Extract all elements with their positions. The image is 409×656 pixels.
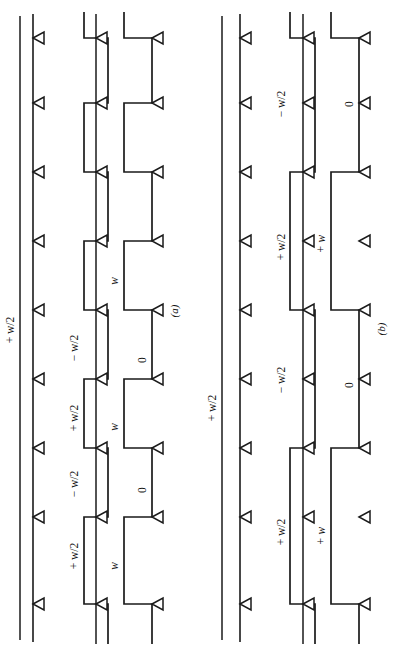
label-square-minus-a-2: − w/2 <box>68 334 80 361</box>
label-square-plus-a-2: + w/2 <box>68 404 80 431</box>
panel-a-unipolar-pulse-train <box>124 12 163 644</box>
square-wave-ticks <box>96 32 107 610</box>
diagram-canvas: + w/2 + w/2 − w/2 + w/2 − w/2 w 0 w 0 w … <box>0 0 409 656</box>
caption-panel-b: (b) <box>375 322 388 335</box>
label-square-plus-a-1: + w/2 <box>68 542 80 569</box>
label-reference-b: + w/2 <box>206 394 218 421</box>
label-pulse-zero-a-2: 0 <box>136 357 148 363</box>
square-wave-ticks <box>303 32 314 610</box>
caption-panel-a: (a) <box>168 304 181 317</box>
pulse-train-ticks <box>152 32 163 610</box>
label-reference-a: + w/2 <box>4 316 16 343</box>
label-pulse-zero-b-1: 0 <box>343 382 355 388</box>
label-square-plus-b-1: + w/2 <box>275 518 287 545</box>
panel-a: + w/2 + w/2 − w/2 + w/2 − w/2 w 0 w 0 w … <box>4 12 181 644</box>
panel-a-bipolar-square-wave <box>84 12 108 644</box>
label-pulse-w-a-3: w <box>108 277 120 285</box>
label-pulse-w-a-2: w <box>108 423 120 431</box>
pulse-train-ticks <box>359 32 370 610</box>
tick-marks <box>240 32 251 610</box>
panel-b: + w/2 + w/2 − w/2 + w/2 − w/2 + w 0 + w … <box>206 12 388 644</box>
label-pulse-w-a-1: w <box>108 562 120 570</box>
panel-b-tick-baseline <box>240 14 251 642</box>
label-square-plus-b-2: + w/2 <box>275 233 287 260</box>
timing-diagram-figure: + w/2 + w/2 − w/2 + w/2 − w/2 w 0 w 0 w … <box>0 0 409 656</box>
label-square-minus-b-1: − w/2 <box>275 366 287 393</box>
label-pulse-zero-a-1: 0 <box>136 487 148 493</box>
panel-b-bipolar-square-wave <box>290 12 315 644</box>
label-square-minus-b-2: − w/2 <box>275 90 287 117</box>
label-pulse-plusw-b-1: + w <box>315 527 327 546</box>
label-square-minus-a-1: − w/2 <box>68 470 80 497</box>
panel-a-tick-baseline <box>33 14 44 642</box>
tick-marks <box>33 32 44 610</box>
label-pulse-zero-b-2: 0 <box>343 101 355 107</box>
label-pulse-plusw-b-2: + w <box>315 235 327 254</box>
